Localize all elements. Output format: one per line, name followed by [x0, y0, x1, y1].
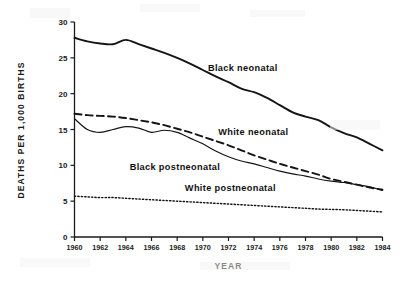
x-tick-label: 1982	[349, 243, 365, 252]
series-line-white-neonatal	[75, 114, 383, 190]
x-tick-label: 1972	[221, 243, 237, 252]
series-label-white-postneonatal: White postneonatal	[185, 183, 276, 193]
x-tick-label: 1976	[272, 243, 288, 252]
y-tick-label: 25	[59, 54, 68, 63]
infant-mortality-chart: 051015202530 196019621964196619681970197…	[0, 0, 402, 281]
x-tick-label: 1974	[246, 243, 262, 252]
x-tick-label: 1966	[144, 243, 160, 252]
x-tick-label: 1964	[118, 243, 134, 252]
x-tick-label: 1962	[92, 243, 108, 252]
y-axis-ticks: 051015202530	[59, 18, 75, 242]
x-tick-label: 1970	[195, 243, 211, 252]
series-label-black-neonatal: Black neonatal	[208, 63, 278, 73]
x-tick-label: 1978	[298, 243, 314, 252]
series-line-white-postneonatal	[75, 196, 383, 212]
y-tick-label: 10	[59, 161, 68, 170]
chart-canvas: 051015202530 196019621964196619681970197…	[0, 0, 402, 281]
y-tick-label: 0	[63, 233, 68, 242]
y-tick-label: 15	[59, 126, 68, 135]
x-axis-ticks: 1960196219641966196819701972197419761978…	[67, 237, 391, 252]
series-labels-group: Black neonatalWhite neonatalBlack postne…	[130, 63, 289, 193]
y-tick-label: 5	[63, 197, 68, 206]
y-tick-label: 30	[59, 18, 68, 27]
x-tick-label: 1960	[67, 243, 83, 252]
x-tick-label: 1980	[323, 243, 339, 252]
x-tick-label: 1984	[375, 243, 391, 252]
series-label-black-postneonatal: Black postneonatal	[130, 162, 221, 172]
series-label-white-neonatal: White neonatal	[218, 127, 288, 137]
x-axis-title: YEAR	[214, 261, 242, 271]
x-tick-label: 1968	[169, 243, 185, 252]
y-tick-label: 20	[59, 90, 68, 99]
y-axis-title: DEATHS PER 1,000 BIRTHS	[16, 61, 26, 198]
